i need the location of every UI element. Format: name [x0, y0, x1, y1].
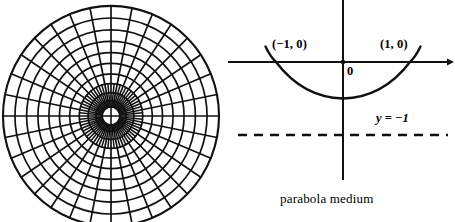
parabola-plot-panel: (−1, 0) (1, 0) 0 y = −1 parabola medium [228, 0, 455, 222]
polar-grid-group [3, 6, 219, 222]
polar-grid-panel [0, 0, 228, 222]
polar-spoke [120, 95, 217, 115]
polar-spoke [113, 8, 132, 107]
x-axis-arrow-icon [447, 59, 454, 66]
left-root-label: (−1, 0) [272, 38, 307, 51]
origin-label: 0 [347, 65, 353, 78]
parabola-plot-svg [228, 0, 455, 222]
origin-dot [341, 60, 346, 65]
figure-caption: parabola medium [280, 192, 374, 205]
polar-spoke [90, 8, 109, 107]
polar-spoke [5, 95, 102, 115]
polar-spoke [5, 118, 102, 138]
polar-grid-svg [0, 0, 228, 222]
asymptote-label: y = −1 [376, 112, 409, 125]
right-root-label: (1, 0) [380, 38, 408, 51]
polar-spoke [120, 118, 217, 138]
figure-container: (−1, 0) (1, 0) 0 y = −1 parabola medium [0, 0, 455, 222]
